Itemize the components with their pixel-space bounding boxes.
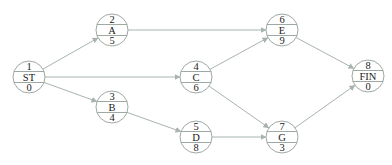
node-label: E: [279, 25, 285, 36]
node-duration: 4: [109, 112, 115, 123]
node-duration: 0: [365, 81, 370, 92]
node-duration: 5: [109, 35, 114, 46]
edge-st-to-b: [44, 82, 96, 101]
node-a: 2A5: [96, 14, 128, 47]
node-c: 4C6: [180, 61, 212, 94]
edge-c-to-g: [209, 86, 268, 127]
node-duration: 0: [26, 82, 31, 93]
node-d: 5D8: [180, 121, 212, 154]
node-label: ST: [23, 72, 36, 83]
node-label: D: [192, 132, 200, 143]
node-duration: 9: [279, 35, 284, 46]
network-diagram: 1ST02A53B44C65D86E97G38FIN0: [0, 0, 392, 165]
node-b: 3B4: [96, 91, 128, 124]
edge-c-to-e: [210, 38, 267, 69]
node-st: 1ST0: [13, 61, 45, 94]
nodes-layer: 1ST02A53B44C65D86E97G38FIN0: [13, 14, 384, 154]
node-label: B: [108, 102, 115, 113]
edge-st-to-a: [43, 38, 98, 69]
node-duration: 8: [193, 142, 198, 153]
node-e: 6E9: [266, 14, 298, 47]
node-number: 1: [26, 61, 31, 72]
node-number: 4: [193, 61, 199, 72]
node-number: 2: [109, 14, 114, 25]
edge-b-to-d: [127, 112, 180, 131]
node-number: 3: [109, 91, 114, 102]
node-number: 7: [279, 121, 284, 132]
edge-e-to-fin: [296, 38, 353, 69]
node-label: C: [192, 72, 199, 83]
node-number: 5: [193, 121, 198, 132]
node-fin: 8FIN0: [352, 60, 384, 93]
edge-g-to-fin: [295, 86, 354, 128]
node-duration: 3: [279, 142, 284, 153]
node-number: 8: [365, 60, 370, 71]
node-number: 6: [279, 14, 284, 25]
node-label: G: [278, 132, 286, 143]
node-g: 7G3: [266, 121, 298, 154]
node-label: FIN: [360, 71, 377, 82]
node-duration: 6: [193, 82, 198, 93]
node-label: A: [108, 25, 116, 36]
